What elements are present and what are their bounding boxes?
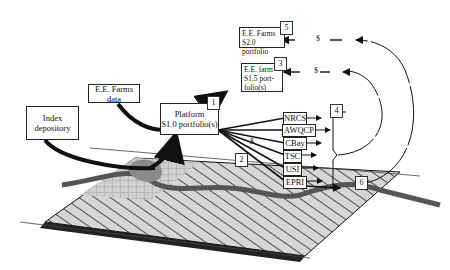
ee-farms-s20-line1: E.E. Farms	[242, 29, 282, 38]
payment-symbol-s20: $	[316, 34, 320, 43]
platform-line1: Platform	[175, 109, 205, 119]
org-usi: USI	[283, 163, 302, 176]
step-number-1: 1	[207, 96, 220, 110]
org-epri: EPRI	[283, 176, 307, 189]
step-number-6: 6	[355, 176, 368, 190]
index-depository-line2: depository	[35, 123, 71, 133]
step-number-3: 3	[274, 57, 287, 71]
ee-farm-s15-line2: S1.5 port-	[244, 74, 280, 83]
index-depository-box: Index depository	[26, 106, 79, 140]
step-number-5: 5	[280, 21, 293, 35]
curve-to-s20	[356, 40, 414, 184]
org-cbay: CBay	[283, 137, 307, 150]
ee-farms-data-label: E.E. Farms data	[89, 84, 139, 104]
ee-farms-s20-line2: S2.0 portfolio	[242, 38, 282, 56]
payment-symbol-fan: $	[250, 137, 254, 146]
ee-farms-s20-box: E.E. Farms S2.0 portfolio	[239, 27, 285, 48]
ee-farm-s15-line3: folio(s)	[244, 83, 280, 92]
curve-to-s15	[338, 71, 382, 155]
ee-farms-data-box: E.E. Farms data	[88, 84, 140, 103]
step-number-4: 4	[330, 104, 343, 118]
index-depository-line1: Index	[43, 113, 62, 123]
platform-line2: S1.0 portfolio(s)	[161, 119, 217, 129]
org-awqcp: AWQCP	[282, 124, 316, 137]
payment-symbol-s15: $	[314, 66, 318, 75]
org-tsc: TSC	[283, 150, 302, 163]
striped-field	[45, 158, 400, 256]
step-number-2: 2	[235, 153, 248, 167]
